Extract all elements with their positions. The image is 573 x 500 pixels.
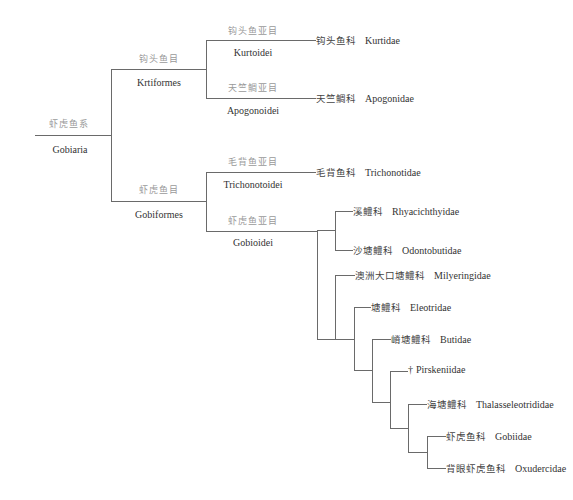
branch-krtiformes-split (206, 40, 207, 99)
branch-milyeringidae-clade (317, 339, 336, 340)
branch-krtiformes (111, 69, 207, 70)
label-trichonotoidei-en: Trichonotoidei (223, 179, 282, 190)
leaf-pirskeniidae: †Pirskeniidae (408, 364, 465, 375)
leaf-odontobutidae: 沙塘鳢科Odontobutidae (353, 243, 461, 257)
branch-rhya-odonto (317, 230, 336, 231)
leaf-kurtidae: 钩头鱼科Kurtidae (316, 33, 400, 47)
leaf-rhyacichthyidae: 溪鳢科Rhyacichthyidae (353, 204, 459, 218)
branch-thalasseleotrididae-clade (390, 428, 409, 429)
branch-gobioidei (206, 231, 318, 232)
leaf-thalasseleotrididae: 海塘鳢科Thalasseleotrididae (427, 397, 554, 411)
branch-eleotridae (354, 307, 371, 308)
label-kurtoidei-en: Kurtoidei (234, 47, 272, 58)
branch-thalasseleotrididae (408, 404, 427, 405)
branch-gobiidae-split (427, 436, 428, 469)
label-kurtoidei-zh: 钩头鱼亚目 (228, 24, 278, 37)
label-gobioidei-en: Gobioidei (233, 237, 273, 248)
label-root-zh: 虾虎鱼系 (49, 117, 89, 130)
branch-gobiformes-split (206, 172, 207, 232)
leaf-gobiidae: 虾虎鱼科Gobiidae (446, 429, 532, 443)
branch-kurtoidei (206, 40, 316, 41)
label-root-en: Gobiaria (53, 144, 88, 155)
branch-thalasseleotrididae-split (408, 404, 409, 453)
branch-rhya-odonto-split (335, 211, 336, 251)
branch-odontobutidae (335, 250, 353, 251)
label-gobiformes-en: Gobiformes (135, 209, 183, 220)
branch-apogonoidei (206, 98, 316, 99)
branch-butidae-clade (354, 370, 373, 371)
leaf-oxudercidae: 背眼虾虎鱼科Oxudercidae (446, 461, 566, 475)
branch-oxudercidae (427, 468, 446, 469)
label-krtiformes-en: Krtiformes (137, 77, 181, 88)
branch-gobioidei-split (317, 231, 318, 340)
leaf-milyeringidae: 澳洲大口塘鳢科Milyeringidae (355, 268, 491, 282)
leaf-apogonidae: 天竺鲷科Apogonidae (316, 91, 414, 105)
label-apogonoidei-en: Apogonoidei (227, 105, 279, 116)
branch-butidae (372, 339, 391, 340)
branch-milyeringidae-split (335, 275, 336, 340)
branch-pirskeniidae-split (390, 371, 391, 429)
branch-butidae-split (372, 339, 373, 403)
branch-trichonotoidei (206, 172, 316, 173)
branch-root-split (111, 69, 112, 202)
leaf-eleotridae: 塘鳢科Eleotridae (371, 300, 451, 314)
leaf-butidae: 嵴塘鳢科Butidae (391, 332, 471, 346)
label-krtiformes-zh: 钩头鱼目 (139, 52, 179, 65)
label-gobiformes-zh: 虾虎鱼目 (139, 183, 179, 196)
branch-gobiidae (427, 436, 446, 437)
branch-rhyacichthyidae (335, 211, 353, 212)
leaf-trichonotidae: 毛背鱼科Trichonotidae (316, 165, 421, 179)
branch-root (35, 135, 112, 136)
label-trichonotoidei-zh: 毛背鱼亚目 (228, 155, 278, 168)
branch-gobiidae-clade (408, 452, 427, 453)
branch-eleotridae-clade (335, 339, 355, 340)
branch-pirskeniidae (390, 371, 408, 372)
branch-eleotridae-split (354, 307, 355, 371)
label-apogonoidei-zh: 天竺鲷亚目 (228, 81, 278, 94)
extinct-dagger-icon: † (408, 364, 413, 375)
branch-gobiformes (111, 201, 207, 202)
branch-pirskeniidae-clade (372, 402, 391, 403)
label-gobioidei-zh: 虾虎鱼亚目 (228, 214, 278, 227)
branch-milyeringidae (335, 275, 355, 276)
